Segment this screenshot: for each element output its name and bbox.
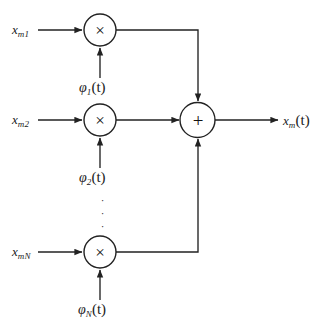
multiplier-glyph-1: × — [92, 22, 108, 39]
input-label-subscript-n: mN — [18, 251, 31, 261]
carrier-label-base-n: φ — [78, 302, 86, 317]
input-label-subscript-1: m1 — [18, 29, 29, 39]
diagram-wiring — [0, 0, 323, 328]
vertical-ellipsis: · · · — [99, 194, 106, 233]
branch-1-to-summer-wire — [116, 30, 198, 101]
multiplier-glyph-2: × — [92, 112, 108, 129]
carrier-label-argument-1: (t) — [91, 79, 105, 95]
carrier-label-base-1: φ — [79, 80, 87, 95]
carrier-label-branch-2: φ2(t) — [79, 170, 106, 187]
input-label-branch-1: xm1 — [12, 23, 29, 39]
carrier-label-branch-n: φN(t) — [78, 302, 106, 319]
ellipsis-dot-2: · — [99, 207, 106, 220]
ellipsis-dot-3: · — [99, 220, 106, 233]
input-label-branch-2: xm2 — [12, 113, 29, 129]
carrier-label-argument-n: (t) — [92, 301, 106, 317]
multiplier-glyph-n: × — [92, 244, 108, 261]
input-label-subscript-2: m2 — [18, 119, 29, 129]
output-label-argument: (t) — [295, 112, 309, 128]
ellipsis-dot-1: · — [99, 194, 106, 207]
block-diagram-canvas: × × × + xm1 xm2 xmN φ1(t) φ2(t) φN(t) xm… — [0, 0, 323, 328]
input-label-branch-n: xmN — [12, 245, 31, 261]
carrier-label-base-2: φ — [79, 170, 87, 185]
summing-junction-glyph: + — [190, 111, 206, 130]
carrier-label-argument-2: (t) — [91, 169, 105, 185]
branch-n-to-summer-wire — [116, 139, 198, 252]
carrier-label-branch-1: φ1(t) — [79, 80, 106, 97]
output-label: xm(t) — [283, 113, 310, 130]
